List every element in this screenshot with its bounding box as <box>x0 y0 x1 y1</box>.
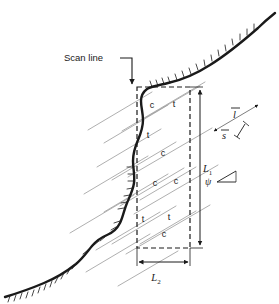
trace-label-t: t <box>168 212 171 222</box>
trace-label-c: c <box>150 100 155 110</box>
l-bar-symbol: l <box>233 109 236 120</box>
l1-dimension-label: L1 <box>202 163 213 177</box>
dimension-l2 <box>137 248 190 266</box>
trace-label-t: t <box>147 130 150 140</box>
spacing-symbol: s <box>222 130 226 141</box>
l2-subscript: 2 <box>157 278 161 286</box>
trace-length-symbol: l <box>233 109 236 120</box>
trace-classification-labels: cttcccttc <box>142 99 179 239</box>
scanline-diagram-svg: Scan line L1 L2 l s <box>0 0 279 304</box>
discontinuity-traces <box>70 82 218 286</box>
dip-angle-symbol: ψ <box>205 176 212 187</box>
s-bar-symbol: s <box>222 130 226 141</box>
figure-root: Scan line L1 L2 l s <box>0 0 279 304</box>
spacing-annotation <box>234 121 249 139</box>
slope-profile <box>5 13 275 302</box>
scan-line-label: Scan line <box>64 52 103 63</box>
trace-label-c: c <box>174 176 179 186</box>
scan-line-leader <box>120 58 132 84</box>
trace-label-c: c <box>153 178 158 188</box>
trace-label-c: c <box>162 229 167 239</box>
trace-label-c: c <box>161 148 166 158</box>
l2-dimension-label: L2 <box>150 272 161 286</box>
dip-angle-annotation <box>217 171 236 182</box>
dimension-l1 <box>190 87 203 248</box>
trace-label-t: t <box>142 214 145 224</box>
trace-length-annotation <box>214 105 258 131</box>
